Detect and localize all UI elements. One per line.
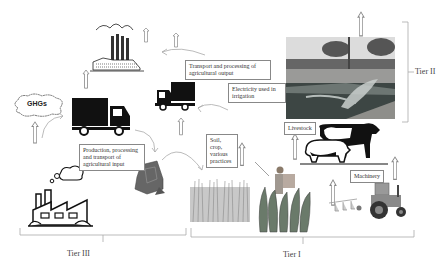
tier-3-label: Tier III: [67, 249, 90, 258]
tier-1-label: Tier I: [283, 250, 301, 259]
tier-brackets: [0, 0, 445, 269]
tier-2-label: Tier II: [415, 67, 435, 76]
